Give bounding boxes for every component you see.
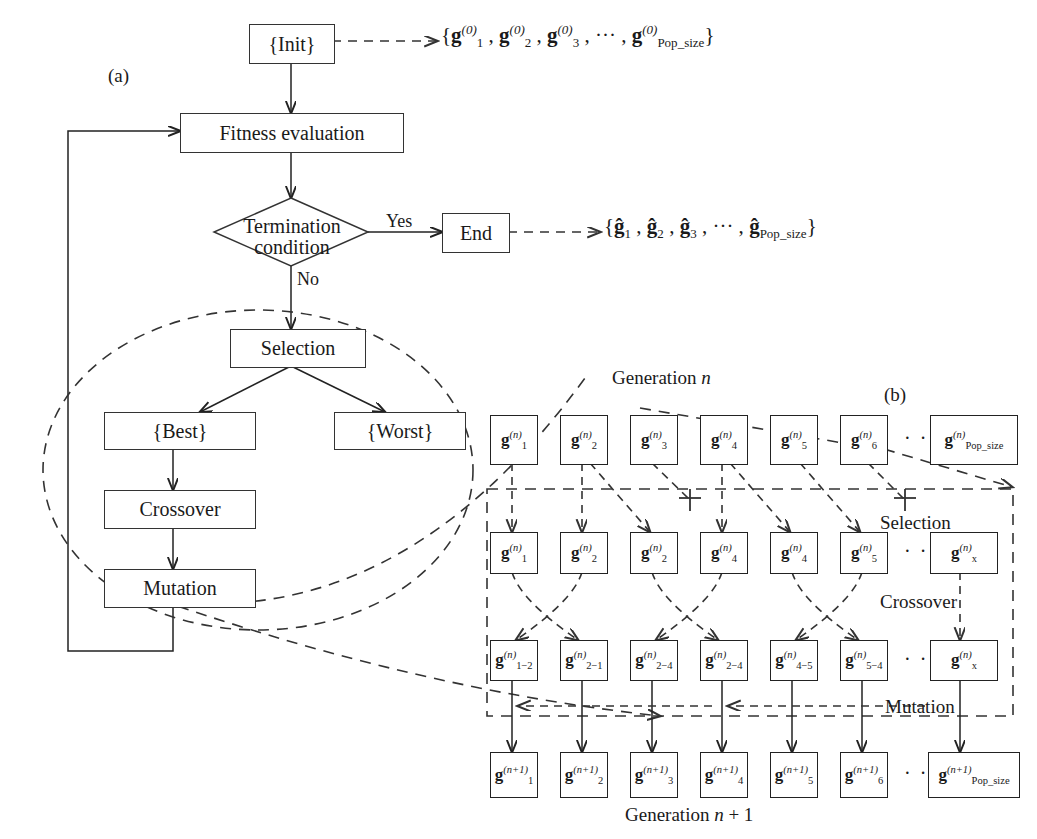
- chromosome-box[interactable]: g(n)5: [770, 415, 818, 465]
- chromosome-box-last[interactable]: g(n)x: [930, 532, 998, 574]
- selection-box-label: Selection: [261, 337, 335, 360]
- chromosome-box[interactable]: g(n)2: [560, 532, 608, 574]
- panel-b-tag: (b): [884, 385, 906, 404]
- chromosome-box[interactable]: g(n+1)5: [770, 752, 818, 798]
- chromosome-label: g(n)5: [851, 542, 877, 564]
- chromosome-box-last[interactable]: g(n+1)Pop_size: [928, 752, 1020, 798]
- chromosome-box[interactable]: g(n)4: [700, 532, 748, 574]
- chromosome-label: g(n)2: [571, 542, 597, 564]
- worst-box-label: {Worst}: [367, 420, 433, 443]
- step-crossover-label: Crossover: [880, 592, 957, 611]
- chromosome-label: g(n)1: [501, 542, 527, 564]
- init-box[interactable]: {Init}: [249, 24, 335, 64]
- termination-condition-label: Termination condition: [232, 216, 352, 258]
- chromosome-box[interactable]: g(n)5: [840, 532, 888, 574]
- chromosome-label: g(n+1)5: [775, 764, 813, 786]
- chromosome-label: g(n)2−4: [705, 649, 742, 671]
- end-box-label: End: [460, 222, 492, 245]
- generation-n-plus-1-label: Generation n + 1: [625, 805, 753, 824]
- chromosome-label: g(n)4: [711, 542, 737, 564]
- chromosome-box[interactable]: g(n)2−4: [700, 640, 748, 681]
- chromosome-box[interactable]: g(n)6: [840, 415, 888, 465]
- generation-n-label: Generation n: [612, 368, 711, 387]
- chromosome-label: g(n)2: [641, 542, 667, 564]
- end-box[interactable]: End: [442, 213, 510, 253]
- chromosome-label: g(n)6: [851, 429, 877, 451]
- chromosome-box[interactable]: g(n)1: [490, 415, 538, 465]
- chromosome-label: g(n)x: [951, 649, 977, 671]
- chromosome-box[interactable]: g(n+1)6: [840, 752, 888, 798]
- chromosome-label: g(n+1)4: [705, 764, 743, 786]
- chromosome-box[interactable]: g(n)2−1: [560, 640, 608, 681]
- final-population-expression: {ĝ1 , ĝ2 , ĝ3 , ··· , ĝPop_size}: [604, 214, 817, 242]
- chromosome-box[interactable]: g(n)2: [560, 415, 608, 465]
- chromosome-box[interactable]: g(n)4: [700, 415, 748, 465]
- chromosome-box-last[interactable]: g(n)Pop_size: [930, 415, 1018, 465]
- fitness-evaluation-label: Fitness evaluation: [220, 122, 365, 145]
- chromosome-box[interactable]: g(n)1−2: [490, 640, 538, 681]
- chromosome-box[interactable]: g(n+1)2: [560, 752, 608, 798]
- step-selection-label: Selection: [880, 513, 951, 532]
- chromosome-label: g(n)Pop_size: [945, 429, 1004, 451]
- crossover-box[interactable]: Crossover: [104, 490, 256, 529]
- chromosome-label: g(n+1)Pop_size: [938, 764, 1009, 786]
- chromosome-label: g(n+1)6: [845, 764, 883, 786]
- chromosome-box[interactable]: g(n+1)1: [490, 752, 538, 798]
- crossover-box-label: Crossover: [139, 498, 220, 521]
- chromosome-label: g(n)2: [571, 429, 597, 451]
- chromosome-label: g(n)1−2: [495, 649, 532, 671]
- mutation-box[interactable]: Mutation: [104, 569, 256, 608]
- fitness-evaluation-box[interactable]: Fitness evaluation: [180, 113, 404, 153]
- chromosome-label: g(n)4−5: [775, 649, 812, 671]
- mutation-box-label: Mutation: [143, 577, 216, 600]
- chromosome-box[interactable]: g(n+1)4: [700, 752, 748, 798]
- chromosome-label: g(n)4: [781, 542, 807, 564]
- chromosome-box[interactable]: g(n)1: [490, 532, 538, 574]
- selection-box[interactable]: Selection: [230, 329, 366, 368]
- chromosome-box[interactable]: g(n)2−4: [630, 640, 678, 681]
- chromosome-box[interactable]: g(n)4: [770, 532, 818, 574]
- chromosome-box[interactable]: g(n)5−4: [840, 640, 888, 681]
- worst-box[interactable]: {Worst}: [334, 412, 466, 450]
- chromosome-box[interactable]: g(n+1)3: [630, 752, 678, 798]
- init-population-expression: {g(0)1 , g(0)2 , g(0)3 , ··· , g(0)Pop_s…: [441, 22, 714, 51]
- panel-a-tag: (a): [108, 66, 129, 85]
- best-box-label: {Best}: [153, 420, 208, 443]
- chromosome-label: g(n)3: [641, 429, 667, 451]
- chromosome-label: g(n)2−1: [565, 649, 602, 671]
- no-edge-label: No: [297, 270, 319, 288]
- chromosome-box[interactable]: g(n)3: [630, 415, 678, 465]
- yes-edge-label: Yes: [386, 212, 412, 230]
- chromosome-label: g(n)x: [951, 542, 977, 564]
- step-mutation-label: Mutation: [885, 697, 955, 716]
- chromosome-box[interactable]: g(n)2: [630, 532, 678, 574]
- init-box-label: {Init}: [269, 33, 316, 56]
- chromosome-label: g(n+1)2: [565, 764, 603, 786]
- chromosome-label: g(n+1)3: [635, 764, 673, 786]
- chromosome-label: g(n)4: [711, 429, 737, 451]
- figure-canvas: (a) {Init} {g(0)1 , g(0)2 , g(0)3 , ··· …: [0, 0, 1037, 839]
- chromosome-label: g(n)5−4: [845, 649, 882, 671]
- chromosome-label: g(n)5: [781, 429, 807, 451]
- chromosome-label: g(n)2−4: [635, 649, 672, 671]
- best-box[interactable]: {Best}: [104, 412, 256, 450]
- chromosome-label: g(n)1: [501, 429, 527, 451]
- chromosome-label: g(n+1)1: [495, 764, 533, 786]
- chromosome-box-last[interactable]: g(n)x: [930, 640, 998, 681]
- chromosome-box[interactable]: g(n)4−5: [770, 640, 818, 681]
